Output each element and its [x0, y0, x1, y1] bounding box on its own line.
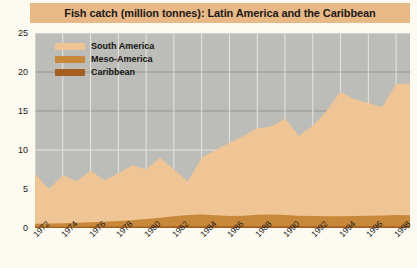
legend-label: Meso-America: [91, 54, 153, 65]
y-axis-tick-label: 10: [2, 146, 28, 155]
page-title: Fish catch (million tonnes): Latin Ameri…: [30, 3, 410, 23]
y-axis-tick-label: 15: [2, 107, 28, 116]
legend-swatch: [55, 69, 85, 76]
y-axis-tick-label: 5: [2, 185, 28, 194]
legend-swatch: [55, 56, 85, 63]
chart-figure: Fish catch (million tonnes): Latin Ameri…: [0, 0, 417, 268]
area-series-south-america: [35, 84, 410, 228]
y-axis-tick-label: 25: [2, 29, 28, 38]
legend-swatch: [55, 43, 85, 50]
y-axis-tick-label: 0: [2, 224, 28, 233]
y-axis-tick-label: 20: [2, 68, 28, 77]
legend-label: South America: [91, 41, 154, 52]
legend-label: Caribbean: [91, 67, 135, 78]
series-layer: [35, 84, 410, 228]
